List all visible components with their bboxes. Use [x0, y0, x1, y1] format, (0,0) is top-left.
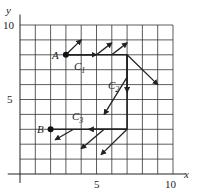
curve-label-c1: C1 — [74, 60, 85, 75]
point-a — [63, 52, 69, 58]
vector-field-plot: y x 10 5 5 10 A B C1 C2 C3 — [0, 0, 200, 192]
point-b — [48, 126, 54, 132]
curve-label-c3: C3 — [72, 110, 83, 125]
vector-arrow-icon — [112, 43, 127, 55]
point-label-b: B — [37, 123, 44, 135]
vector-arrow-icon — [81, 129, 104, 148]
x-axis-label: x — [183, 168, 189, 180]
y-tick-10: 10 — [3, 19, 15, 31]
vector-arrow-icon — [101, 129, 127, 154]
line-integral-diagram: y x 10 5 5 10 A B C1 C2 C3 — [0, 0, 200, 192]
y-axis-label: y — [5, 4, 11, 16]
x-tick-5: 5 — [94, 178, 100, 190]
y-tick-5: 5 — [7, 93, 13, 105]
point-label-a: A — [51, 49, 59, 61]
curve-label-c2: C2 — [108, 79, 119, 94]
vector-arrow-icon — [66, 40, 81, 55]
grid — [20, 25, 173, 174]
vector-arrow-icon — [97, 43, 112, 55]
x-tick-10: 10 — [165, 178, 177, 190]
vector-arrow-icon — [55, 129, 73, 139]
